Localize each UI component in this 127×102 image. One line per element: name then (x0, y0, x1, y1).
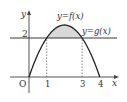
y-axis-label: y (20, 9, 27, 19)
series-label-f: y=f(x) (56, 11, 84, 21)
series-label-g: y=g(x) (81, 26, 111, 36)
x-tick-label-3: 3 (80, 79, 85, 89)
x-axis-label: x (112, 78, 117, 88)
y-axis-arrow (27, 10, 31, 15)
x-tick-label-4: 4 (98, 79, 103, 89)
x-tick-label-1: 1 (45, 79, 50, 89)
origin-label: O (19, 79, 26, 89)
chart: y x O 2 1 3 4 y=f(x) y=g(x) (0, 0, 127, 102)
y-tick-label-2: 2 (22, 29, 28, 39)
